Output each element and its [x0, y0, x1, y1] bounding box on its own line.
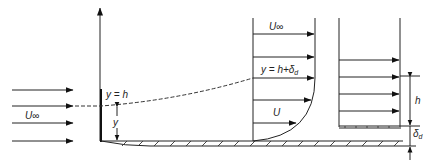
h-dimension-label: h — [415, 95, 421, 106]
boundary-layer-diagram: U∞ y = h y — [0, 0, 432, 161]
equivalent-profile — [339, 18, 401, 128]
edge-height-label: y = h — [105, 89, 128, 100]
displaced-height-label: y = h+δd — [260, 64, 299, 76]
velocity-profile — [253, 18, 315, 141]
local-velocity-label: U — [273, 107, 281, 118]
freestream-label: U∞ — [25, 110, 39, 121]
freestream-arrows — [12, 90, 73, 141]
y-dimension-label: y — [112, 117, 119, 128]
profile-freestream-label: U∞ — [269, 21, 283, 32]
wall — [101, 141, 403, 146]
displacement-thickness-label: δd — [413, 128, 424, 140]
